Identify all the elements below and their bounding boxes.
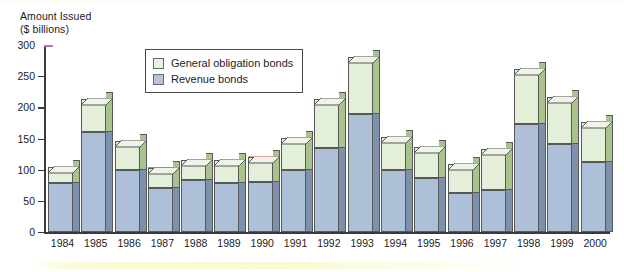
- bar-segment-revenue-1987[interactable]: [148, 188, 173, 232]
- chart-legend: General obligation bonds Revenue bonds: [145, 49, 303, 93]
- bar-group-1993[interactable]: [348, 45, 380, 232]
- bar-segment-revenue-1985[interactable]: [81, 132, 106, 232]
- y-axis-title-line1: Amount Issued: [20, 10, 91, 22]
- bar-group-1999[interactable]: [547, 45, 579, 232]
- bar-group-1995[interactable]: [414, 45, 446, 232]
- bar-side-face: [273, 175, 280, 232]
- bar-top-face: [547, 90, 579, 98]
- y-tick-label: 200: [17, 101, 35, 113]
- legend-swatch-icon-general-obligation-bonds: [153, 58, 164, 69]
- bar-group-1996[interactable]: [448, 45, 480, 232]
- x-tick-label-1989: 1989: [217, 237, 240, 249]
- bar-segment-general-obligation-1984[interactable]: [48, 167, 73, 183]
- bar-segment-general-obligation-1993[interactable]: [348, 57, 373, 114]
- y-tick-label: 50: [23, 195, 35, 207]
- bar-segment-general-obligation-1996[interactable]: [448, 164, 473, 193]
- bar-segment-general-obligation-1992[interactable]: [314, 99, 339, 148]
- bar-group-1992[interactable]: [314, 45, 346, 232]
- y-tick-mark: [38, 107, 44, 108]
- bar-segment-general-obligation-1991[interactable]: [281, 138, 306, 170]
- bar-group-1986[interactable]: [115, 45, 147, 232]
- bar-top-face: [181, 153, 213, 161]
- bar-segment-general-obligation-2000[interactable]: [581, 122, 606, 162]
- scan-artifact-top: [0, 0, 624, 4]
- x-tick-label-1987: 1987: [151, 237, 174, 249]
- bar-segment-general-obligation-1989[interactable]: [214, 160, 239, 183]
- bar-segment-revenue-1997[interactable]: [481, 190, 506, 232]
- bar-front-face: [381, 170, 406, 232]
- bar-segment-general-obligation-1986[interactable]: [115, 141, 140, 170]
- bar-segment-general-obligation-1987[interactable]: [148, 168, 173, 189]
- bar-segment-general-obligation-1985[interactable]: [81, 99, 106, 133]
- y-tick-mark: [38, 76, 44, 77]
- bar-front-face: [514, 124, 539, 232]
- bar-top-face: [414, 140, 446, 148]
- bar-side-face: [606, 155, 613, 232]
- bar-segment-general-obligation-1994[interactable]: [381, 137, 406, 171]
- bar-segment-revenue-2000[interactable]: [581, 162, 606, 232]
- bar-side-face: [73, 176, 80, 232]
- bar-segment-general-obligation-1997[interactable]: [481, 149, 506, 190]
- bar-segment-revenue-1986[interactable]: [115, 170, 140, 232]
- bar-group-1997[interactable]: [481, 45, 513, 232]
- bar-group-1984[interactable]: [48, 45, 80, 232]
- bar-segment-revenue-1984[interactable]: [48, 183, 73, 232]
- bar-segment-revenue-1998[interactable]: [514, 124, 539, 232]
- bar-segment-revenue-1996[interactable]: [448, 193, 473, 232]
- bar-segment-revenue-1988[interactable]: [181, 180, 206, 232]
- bar-side-face: [506, 183, 513, 232]
- bar-cap-artifact: [148, 167, 173, 169]
- y-axis-title: Amount Issued($ billions): [20, 10, 91, 36]
- x-tick-label-1992: 1992: [317, 237, 340, 249]
- bar-group-2000[interactable]: [581, 45, 613, 232]
- bar-group-1985[interactable]: [81, 45, 113, 232]
- bar-front-face: [281, 170, 306, 232]
- bar-front-face: [214, 183, 239, 232]
- chart-figure: Amount Issued($ billions) 05010015020025…: [0, 0, 624, 272]
- bar-segment-general-obligation-1990[interactable]: [248, 157, 273, 182]
- bar-segment-revenue-1994[interactable]: [381, 170, 406, 232]
- bar-top-face: [448, 157, 480, 165]
- bar-front-face: [48, 183, 73, 232]
- bar-segment-revenue-1995[interactable]: [414, 178, 439, 232]
- bar-top-face: [514, 62, 546, 70]
- y-tick-label: 250: [17, 70, 35, 82]
- bar-side-face: [206, 173, 213, 232]
- bar-segment-general-obligation-1998[interactable]: [514, 69, 539, 124]
- y-tick-mark: [38, 201, 44, 202]
- x-axis-line: [44, 232, 610, 234]
- bar-top-face: [481, 142, 513, 150]
- bar-front-face: [547, 97, 572, 144]
- bar-side-face: [539, 117, 546, 232]
- bar-side-face: [173, 181, 180, 232]
- bar-segment-revenue-1991[interactable]: [281, 170, 306, 232]
- x-tick-label-1994: 1994: [384, 237, 407, 249]
- x-tick-label-1984: 1984: [51, 237, 74, 249]
- bar-segment-general-obligation-1999[interactable]: [547, 97, 572, 144]
- bar-segment-revenue-1992[interactable]: [314, 148, 339, 232]
- y-axis-title-line2: ($ billions): [20, 23, 69, 35]
- y-tick-mark: [38, 232, 44, 233]
- bar-front-face: [248, 182, 273, 232]
- bar-segment-general-obligation-1988[interactable]: [181, 160, 206, 179]
- bar-side-face: [140, 163, 147, 232]
- bar-segment-revenue-1999[interactable]: [547, 144, 572, 232]
- x-tick-label-1996: 1996: [450, 237, 473, 249]
- y-axis-line: [44, 45, 46, 232]
- bar-front-face: [115, 170, 140, 232]
- y-tick-mark: [38, 170, 44, 171]
- bar-front-face: [181, 180, 206, 232]
- bar-segment-general-obligation-1995[interactable]: [414, 147, 439, 178]
- bar-top-face: [381, 130, 413, 138]
- legend-label-general-obligation-bonds: General obligation bonds: [171, 57, 293, 69]
- x-tick-label-1999: 1999: [550, 237, 573, 249]
- bar-top-face: [115, 134, 147, 142]
- scan-artifact-band: [30, 262, 585, 269]
- bar-segment-revenue-1990[interactable]: [248, 182, 273, 232]
- bar-side-face: [406, 163, 413, 232]
- bar-group-1994[interactable]: [381, 45, 413, 232]
- bar-segment-revenue-1993[interactable]: [348, 114, 373, 232]
- y-tick-label: 300: [17, 39, 35, 51]
- bar-segment-revenue-1989[interactable]: [214, 183, 239, 232]
- bar-group-1998[interactable]: [514, 45, 546, 232]
